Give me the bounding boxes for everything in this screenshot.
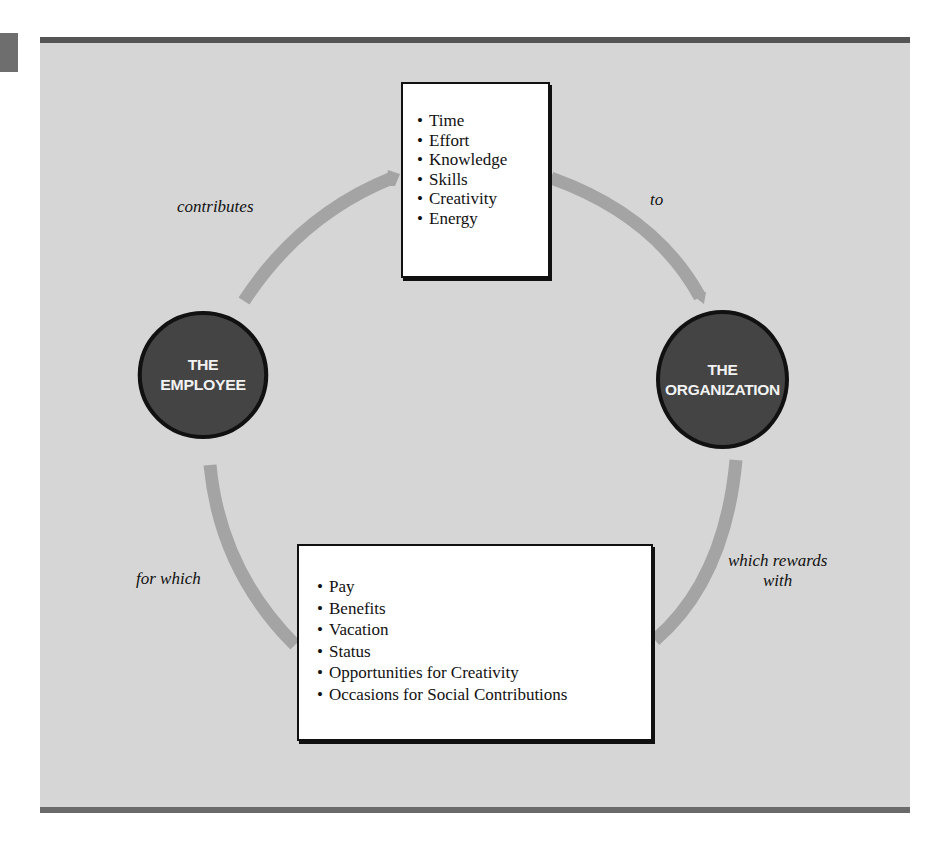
list-item: Energy <box>417 209 548 229</box>
label-which-rewards-with: which rewards with <box>728 551 827 591</box>
list-item: Occasions for Social Contributions <box>317 684 651 706</box>
list-item: Time <box>417 111 548 131</box>
list-item: Benefits <box>317 598 651 620</box>
employee-node: THE EMPLOYEE <box>138 311 269 439</box>
arrow-to <box>551 178 700 297</box>
rewards-list: Pay Benefits Vacation Status Opportuniti… <box>299 546 651 705</box>
organization-node: THE ORGANIZATION <box>656 310 789 449</box>
list-item: Knowledge <box>417 150 548 170</box>
employee-node-line2: EMPLOYEE <box>160 375 245 395</box>
label-for-which: for which <box>136 569 201 589</box>
label-which-rewards: which rewards <box>728 551 827 571</box>
contributions-box: Time Effort Knowledge Skills Creativity … <box>401 82 550 278</box>
label-contributes: contributes <box>177 197 254 217</box>
employee-node-line1: THE <box>188 355 219 375</box>
list-item: Pay <box>317 576 651 598</box>
list-item: Vacation <box>317 619 651 641</box>
label-to: to <box>650 190 663 210</box>
arrow-rewards <box>655 460 736 640</box>
list-item: Opportunities for Creativity <box>317 662 651 684</box>
contributions-list: Time Effort Knowledge Skills Creativity … <box>403 84 548 228</box>
arrow-contributes <box>244 178 392 301</box>
label-with: with <box>728 571 827 591</box>
list-item: Creativity <box>417 189 548 209</box>
organization-node-line2: ORGANIZATION <box>665 380 780 400</box>
list-item: Skills <box>417 170 548 190</box>
list-item: Status <box>317 641 651 663</box>
rewards-box: Pay Benefits Vacation Status Opportuniti… <box>297 544 653 741</box>
organization-node-line1: THE <box>707 360 737 380</box>
list-item: Effort <box>417 131 548 151</box>
arrowhead-contributes-icon <box>386 170 400 186</box>
arrow-for-which <box>210 465 295 645</box>
